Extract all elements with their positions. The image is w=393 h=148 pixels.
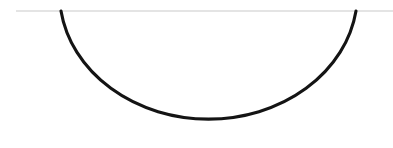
figure-canvas — [0, 0, 393, 148]
background-rect — [0, 0, 393, 148]
arc-figure-svg — [0, 0, 393, 148]
